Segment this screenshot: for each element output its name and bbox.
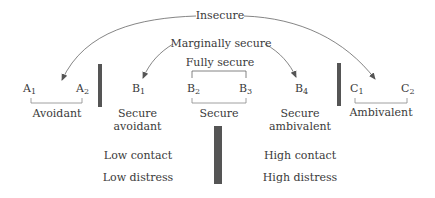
- category-secure: Secure: [185, 108, 253, 120]
- ambivalent-bracket: [355, 98, 407, 103]
- center-bar: [214, 126, 222, 184]
- high-contact-label: High contact: [262, 150, 338, 162]
- category-avoidant: Avoidant: [20, 108, 94, 120]
- subgroup-b1: B1: [132, 83, 145, 98]
- subgroup-c1: C1: [350, 83, 364, 98]
- category-secure-avoidant-line2: avoidant: [100, 121, 175, 133]
- subgroup-a1: A1: [23, 83, 36, 98]
- fully-secure-label: Fully secure: [185, 57, 255, 69]
- avoidant-bracket: [31, 98, 82, 103]
- category-secure-ambivalent-line2: ambivalent: [262, 121, 338, 133]
- subgroup-a2: A2: [76, 83, 89, 98]
- subgroup-b4: B4: [295, 83, 308, 98]
- low-contact-label: Low contact: [100, 150, 176, 162]
- category-ambivalent: Ambivalent: [343, 107, 419, 119]
- high-distress-label: High distress: [262, 172, 338, 184]
- divider-bar-right: [337, 63, 341, 106]
- category-secure-avoidant-line1: Secure: [100, 108, 175, 120]
- secure-bracket: [192, 98, 246, 103]
- subgroup-b3: B3: [239, 83, 252, 98]
- marginally-secure-label: Marginally secure: [168, 38, 274, 50]
- subgroup-c2: C2: [401, 83, 415, 98]
- category-secure-ambivalent-line1: Secure: [262, 108, 338, 120]
- insecure-label: Insecure: [170, 10, 270, 22]
- fully-secure-bracket: [192, 71, 246, 78]
- low-distress-label: Low distress: [100, 172, 176, 184]
- subgroup-b2: B2: [187, 83, 200, 98]
- divider-bar-left: [98, 64, 102, 107]
